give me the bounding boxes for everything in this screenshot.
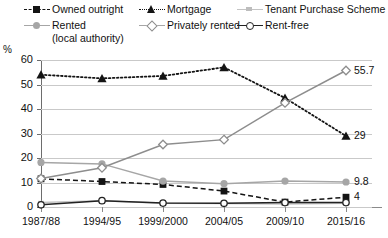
data-point xyxy=(159,177,166,184)
end-label-mortgage: 29 xyxy=(354,129,366,141)
legend-label-privately-rented: Privately rented xyxy=(167,20,240,31)
data-point xyxy=(341,132,350,140)
y-tick-label: 20 xyxy=(5,151,33,163)
data-point xyxy=(343,199,349,205)
legend-label-mortgage: Mortgage xyxy=(167,4,211,15)
x-tick-label: 1994/95 xyxy=(83,215,121,227)
series-privately-rented xyxy=(37,66,351,183)
legend-label-rented: Rented xyxy=(52,20,86,31)
data-point xyxy=(220,180,227,187)
mortgage-marker-icon xyxy=(139,4,165,15)
tenant-purchase-scheme-marker-icon xyxy=(237,4,263,15)
x-tick-label: 2004/05 xyxy=(205,215,243,227)
data-point xyxy=(221,188,228,195)
data-point xyxy=(38,202,44,208)
x-tick-mark xyxy=(285,207,286,212)
data-point xyxy=(99,197,105,203)
data-point xyxy=(342,178,349,185)
x-tick-label: 1987/88 xyxy=(22,215,60,227)
y-tick-label: 50 xyxy=(5,78,33,90)
data-point xyxy=(36,70,45,78)
legend-item-privately-rented: Privately rented xyxy=(139,19,240,32)
x-tick-mark xyxy=(346,207,347,212)
series-rented-local-authority xyxy=(37,159,349,188)
x-tick-mark xyxy=(163,207,164,212)
data-point xyxy=(221,200,227,206)
legend-item-tenant-purchase-scheme: Tenant Purchase Scheme xyxy=(237,3,385,16)
plot-area: 6050403020100 1987/881994/951999/2000200… xyxy=(41,60,372,207)
legend-label-rent-free: Rent-free xyxy=(265,20,309,31)
rented-marker-icon xyxy=(24,20,50,31)
legend-label-tenant-purchase-scheme: Tenant Purchase Scheme xyxy=(265,4,385,15)
legend-item-mortgage: Mortgage xyxy=(139,3,211,16)
data-point xyxy=(160,200,166,206)
legend-item-rented: Rented xyxy=(24,19,86,32)
data-point xyxy=(37,159,44,166)
y-tick-label: 0 xyxy=(5,200,33,212)
legend-item-rent-free: Rent-free xyxy=(237,19,309,32)
chart-legend: Owned outright Mortgage Tenant Purchase … xyxy=(0,0,388,40)
data-point xyxy=(282,199,288,205)
series-lines xyxy=(41,60,372,207)
gridline xyxy=(41,207,372,208)
end-label-owned-outright: 4 xyxy=(354,190,360,202)
x-tick-label: 2009/10 xyxy=(266,215,304,227)
y-tick-label: 40 xyxy=(5,102,33,114)
x-tick-mark xyxy=(224,207,225,212)
owned-outright-marker-icon xyxy=(24,4,50,15)
data-point xyxy=(281,177,288,184)
data-point xyxy=(159,140,168,149)
chart-figure: Owned outright Mortgage Tenant Purchase … xyxy=(0,0,388,238)
legend-label-rented-sublabel: (local authority) xyxy=(52,32,124,44)
y-tick-label: 10 xyxy=(5,176,33,188)
series-rent-free xyxy=(38,197,349,208)
x-tick-label: 2015/16 xyxy=(327,215,365,227)
y-tick-label: 60 xyxy=(5,53,33,65)
legend-label-owned-outright: Owned outright xyxy=(52,4,123,15)
x-tick-mark xyxy=(102,207,103,212)
x-tick-label: 1999/2000 xyxy=(138,215,188,227)
data-point xyxy=(220,135,229,144)
legend-item-owned-outright: Owned outright xyxy=(24,3,123,16)
end-label-rented-local-authority: 9.8 xyxy=(354,175,369,187)
rent-free-marker-icon xyxy=(237,20,263,31)
data-point xyxy=(342,66,351,75)
privately-rented-marker-icon xyxy=(139,20,165,31)
end-label-privately-rented: 55.7 xyxy=(354,64,374,76)
data-point xyxy=(99,178,106,185)
series-mortgage xyxy=(36,63,350,140)
y-tick-label: 30 xyxy=(5,127,33,139)
